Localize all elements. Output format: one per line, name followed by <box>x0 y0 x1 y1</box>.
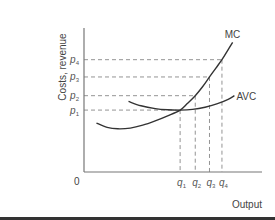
bottom-border <box>0 217 275 220</box>
label-avc: AVC <box>236 91 256 102</box>
curve-mc <box>96 42 232 128</box>
label-mc: MC <box>225 29 241 40</box>
series-group <box>96 42 234 128</box>
chart-svg: p1p2p3p4 q1q2q3q4 Costs, revenue Output … <box>0 0 275 220</box>
x-axis-label: Output <box>232 199 262 210</box>
guide-lines <box>84 60 222 172</box>
y-tick-p2: p2 <box>69 90 80 102</box>
x-tick-q2: q2 <box>192 177 202 189</box>
curve-avc <box>129 96 235 110</box>
y-tick-labels: p1p2p3p4 <box>69 54 80 116</box>
y-tick-p1: p1 <box>69 105 80 117</box>
y-tick-p4: p4 <box>69 54 80 66</box>
x-tick-q1: q1 <box>177 177 187 189</box>
x-tick-q4: q4 <box>219 177 229 189</box>
y-axis-label: Costs, revenue <box>57 33 68 101</box>
origin-label: 0 <box>74 176 80 187</box>
series-labels: MCAVC <box>225 29 257 101</box>
x-tick-q3: q3 <box>206 177 216 189</box>
y-tick-p3: p3 <box>69 71 80 83</box>
x-tick-labels: q1q2q3q4 <box>177 177 228 189</box>
